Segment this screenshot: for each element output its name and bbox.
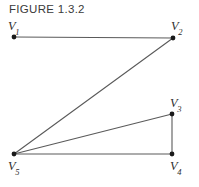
edge-v5-v3 <box>14 114 172 154</box>
vertex-label-v1: V1 <box>8 20 20 37</box>
edge-group <box>14 37 173 154</box>
vertex-subscript-v5: 5 <box>15 167 19 177</box>
edge-v2-v5 <box>14 38 173 154</box>
vertex-subscript-v4: 4 <box>177 167 181 177</box>
vertex-node-v5 <box>12 152 17 157</box>
vertex-node-v4 <box>170 152 175 157</box>
vertex-subscript-v3: 3 <box>177 104 181 114</box>
figure-container: FIGURE 1.3.2 V1 V2 V3 V4 V5 <box>0 0 199 187</box>
vertex-label-v4: V4 <box>170 160 182 177</box>
vertex-label-v5: V5 <box>8 160 20 177</box>
vertex-label-v3: V3 <box>170 97 182 114</box>
vertex-subscript-v1: 1 <box>15 27 19 37</box>
vertex-subscript-v2: 2 <box>178 27 182 37</box>
vertex-label-v2: V2 <box>171 20 183 37</box>
edge-v1-v2 <box>14 37 173 38</box>
